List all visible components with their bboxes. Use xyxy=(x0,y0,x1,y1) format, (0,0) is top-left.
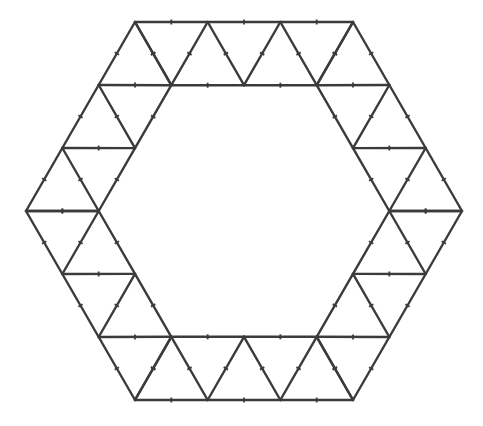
triangulation-spokes xyxy=(26,22,462,400)
hexagon-ring-figure xyxy=(0,0,483,426)
inner-hexagon xyxy=(99,85,390,337)
